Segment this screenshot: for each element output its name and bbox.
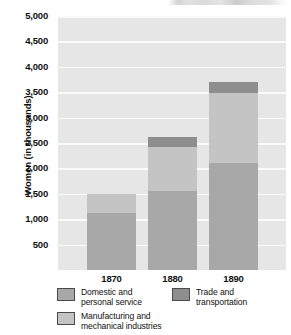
y-tick-label: 2,500 (0, 137, 48, 148)
y-tick-label: 3,500 (0, 86, 48, 97)
x-tick-label-1870: 1870 (82, 273, 142, 284)
y-tick-label: 4,500 (0, 35, 48, 46)
bar-segment-manufacturing-1870[interactable] (87, 194, 136, 213)
legend-item-manufacturing[interactable]: Manufacturing and mechanical industries (57, 311, 162, 331)
legend-label-trade: Trade and transportation (196, 287, 247, 307)
x-tick-label-1880: 1880 (143, 273, 203, 284)
y-tick-label: 4,000 (0, 61, 48, 72)
stacked-bar-chart: Women (in thousands) 5001,0001,5002,0002… (0, 0, 291, 335)
gridline (58, 67, 286, 69)
y-tick-label: 2,000 (0, 162, 48, 173)
bar-segment-trade-1890[interactable] (209, 82, 258, 93)
plot-area (58, 16, 286, 270)
legend-label-domestic: Domestic and personal service (81, 287, 142, 307)
y-tick-label: 3,000 (0, 112, 48, 123)
y-tick-label: 1,500 (0, 188, 48, 199)
bar-1870[interactable] (87, 194, 136, 270)
y-tick-label: 500 (0, 239, 48, 250)
bar-segment-domestic-1870[interactable] (87, 213, 136, 270)
y-axis-tick-labels: 5001,0001,5002,0002,5003,0003,5004,0004,… (0, 0, 56, 335)
legend-item-domestic[interactable]: Domestic and personal service (57, 287, 142, 307)
scan-edge-artifact (168, 0, 286, 5)
bar-segment-manufacturing-1890[interactable] (209, 93, 258, 163)
bar-1890[interactable] (209, 82, 258, 270)
bar-segment-domestic-1880[interactable] (148, 191, 197, 270)
gridline (58, 16, 286, 18)
y-tick-label: 1,000 (0, 213, 48, 224)
bar-segment-trade-1880[interactable] (148, 137, 197, 147)
bar-1880[interactable] (148, 137, 197, 270)
legend-swatch-manufacturing (57, 312, 75, 325)
bar-segment-manufacturing-1880[interactable] (148, 147, 197, 191)
legend-swatch-trade (172, 288, 190, 301)
legend-swatch-domestic (57, 288, 75, 301)
legend-item-trade[interactable]: Trade and transportation (172, 287, 247, 307)
bar-segment-domestic-1890[interactable] (209, 163, 258, 270)
chart-legend: Domestic and personal service Trade and … (57, 287, 291, 333)
x-tick-label-1890: 1890 (204, 273, 264, 284)
y-tick-label: 5,000 (0, 10, 48, 21)
legend-label-manufacturing: Manufacturing and mechanical industries (81, 311, 162, 331)
gridline (58, 41, 286, 43)
